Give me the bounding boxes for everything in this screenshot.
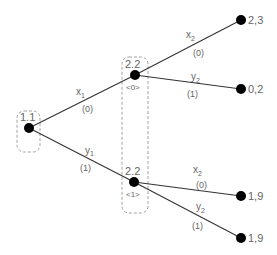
payoff-4: 1,9 xyxy=(248,232,263,244)
edge-x1-prob: (0) xyxy=(82,104,93,114)
leaf-node-2 xyxy=(236,84,246,94)
edge-y1-action: y1 xyxy=(85,145,94,157)
edge-n1-y2-prob: (1) xyxy=(192,221,203,231)
leaf-node-1 xyxy=(236,15,246,25)
root-label: 1.1 xyxy=(20,111,35,123)
game-tree-diagram: 1.1 2.2 <0> 2.2 <1> 2,3 0,2 1,9 1,9 x1 (… xyxy=(0,0,277,255)
edge-y1-prob: (1) xyxy=(80,163,91,173)
edge-x1-action: x1 xyxy=(76,86,85,99)
edge-n1-y2-action: y2 xyxy=(196,201,205,214)
edge-n0-y2-prob: (1) xyxy=(187,89,198,99)
edge-n1-x2-prob: (0) xyxy=(196,180,207,190)
node1-sub: <1> xyxy=(126,190,140,199)
node0-sub: <0> xyxy=(126,83,140,92)
decision-node-0 xyxy=(130,70,140,80)
edge-y1 xyxy=(29,128,134,182)
root-node xyxy=(24,123,34,133)
edge-n0-x2-action: x2 xyxy=(186,29,195,42)
leaf-node-3 xyxy=(236,191,246,201)
payoff-1: 2,3 xyxy=(248,14,263,26)
decision-node-1 xyxy=(129,177,139,187)
node0-label: 2.2 xyxy=(125,58,140,70)
edge-n1-x2-action: x2 xyxy=(193,164,202,177)
node1-label: 2.2 xyxy=(125,165,140,177)
edge-n1-y2 xyxy=(134,182,241,238)
payoff-2: 0,2 xyxy=(248,83,263,95)
edge-x1 xyxy=(29,75,135,128)
edge-n1-x2 xyxy=(134,182,241,196)
payoff-3: 1,9 xyxy=(248,190,263,202)
leaf-node-4 xyxy=(236,233,246,243)
edge-n0-y2 xyxy=(135,75,241,89)
edge-n0-x2-prob: (0) xyxy=(193,48,204,58)
